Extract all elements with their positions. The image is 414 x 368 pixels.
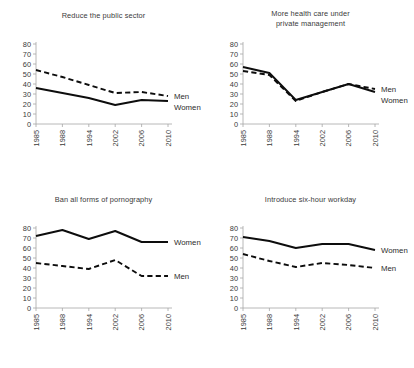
x-axis-tick-label: 2010 xyxy=(164,130,173,146)
y-axis-tick-label: 60 xyxy=(230,60,238,69)
y-axis-tick-label: 10 xyxy=(23,110,31,119)
x-axis-tick-label: 1988 xyxy=(265,130,274,146)
chart-panel-six-hour-workday: Introduce six-hour workday 0102030405060… xyxy=(207,184,414,368)
x-axis-tick-label: 2002 xyxy=(318,130,327,146)
series-line-women xyxy=(243,237,375,250)
x-axis-tick-label: 1985 xyxy=(32,314,41,330)
y-axis-tick-label: 70 xyxy=(23,234,31,243)
y-axis-tick-label: 50 xyxy=(23,70,31,79)
x-axis-tick-label: 2010 xyxy=(164,314,173,330)
series-label-men: Men xyxy=(381,85,396,94)
series-label-men: Men xyxy=(174,92,189,101)
x-axis-tick-label: 1985 xyxy=(239,130,248,146)
series-line-women xyxy=(36,88,168,105)
series-label-men: Men xyxy=(381,264,396,273)
y-axis-tick-label: 50 xyxy=(230,254,238,263)
chart-plot-area: 0102030405060708019851988199420022006201… xyxy=(0,184,207,368)
series-line-women xyxy=(243,67,375,100)
x-axis-tick-label: 1994 xyxy=(292,130,301,146)
x-axis-tick-label: 1985 xyxy=(239,314,248,330)
y-axis-tick-label: 40 xyxy=(230,264,238,273)
y-axis-tick-label: 70 xyxy=(23,50,31,59)
y-axis-tick-label: 30 xyxy=(230,274,238,283)
y-axis-tick-label: 80 xyxy=(230,40,238,49)
y-axis-tick-label: 10 xyxy=(23,294,31,303)
chart-plot-area: 0102030405060708019851988199420022006201… xyxy=(207,0,414,184)
series-label-women: Women xyxy=(381,246,408,255)
x-axis-tick-label: 1988 xyxy=(58,130,67,146)
y-axis-tick-label: 30 xyxy=(23,90,31,99)
y-axis-tick-label: 10 xyxy=(230,294,238,303)
y-axis-tick-label: 80 xyxy=(230,224,238,233)
y-axis-tick-label: 40 xyxy=(23,80,31,89)
y-axis-tick-label: 30 xyxy=(23,274,31,283)
x-axis-tick-label: 2010 xyxy=(371,130,380,146)
y-axis-tick-label: 50 xyxy=(23,254,31,263)
y-axis-tick-label: 0 xyxy=(27,120,31,129)
x-axis-tick-label: 1994 xyxy=(292,314,301,330)
x-axis-tick-label: 2006 xyxy=(137,130,146,146)
x-axis-tick-label: 2006 xyxy=(344,130,353,146)
series-label-women: Women xyxy=(174,238,201,247)
x-axis-tick-label: 1994 xyxy=(85,130,94,146)
series-line-men xyxy=(243,254,375,268)
y-axis-tick-label: 20 xyxy=(230,284,238,293)
y-axis-tick-label: 10 xyxy=(230,110,238,119)
series-line-men xyxy=(36,260,168,276)
x-axis-tick-label: 2002 xyxy=(318,314,327,330)
y-axis-tick-label: 0 xyxy=(234,120,238,129)
x-axis-tick-label: 2002 xyxy=(111,314,120,330)
x-axis-tick-label: 2006 xyxy=(344,314,353,330)
y-axis-tick-label: 20 xyxy=(23,284,31,293)
chart-plot-area: 0102030405060708019851988199420022006201… xyxy=(207,184,414,368)
chart-grid: Reduce the public sector 010203040506070… xyxy=(0,0,414,368)
x-axis-tick-label: 2010 xyxy=(371,314,380,330)
y-axis-tick-label: 20 xyxy=(23,100,31,109)
chart-panel-ban-pornography: Ban all forms of pornography 01020304050… xyxy=(0,184,207,368)
y-axis-tick-label: 50 xyxy=(230,70,238,79)
y-axis-tick-label: 0 xyxy=(27,304,31,313)
x-axis-tick-label: 2002 xyxy=(111,130,120,146)
x-axis-tick-label: 1985 xyxy=(32,130,41,146)
y-axis-tick-label: 0 xyxy=(234,304,238,313)
chart-plot-area: 0102030405060708019851988199420022006201… xyxy=(0,0,207,184)
x-axis-tick-label: 2006 xyxy=(137,314,146,330)
y-axis-tick-label: 40 xyxy=(230,80,238,89)
y-axis-tick-label: 80 xyxy=(23,224,31,233)
y-axis-tick-label: 20 xyxy=(230,100,238,109)
series-line-women xyxy=(36,230,168,242)
series-label-women: Women xyxy=(381,96,408,105)
x-axis-tick-label: 1988 xyxy=(58,314,67,330)
y-axis-tick-label: 60 xyxy=(23,60,31,69)
y-axis-tick-label: 70 xyxy=(230,50,238,59)
series-label-women: Women xyxy=(174,103,201,112)
y-axis-tick-label: 40 xyxy=(23,264,31,273)
y-axis-tick-label: 80 xyxy=(23,40,31,49)
x-axis-tick-label: 1994 xyxy=(85,314,94,330)
chart-panel-reduce-public-sector: Reduce the public sector 010203040506070… xyxy=(0,0,207,184)
x-axis-tick-label: 1988 xyxy=(265,314,274,330)
y-axis-tick-label: 70 xyxy=(230,234,238,243)
y-axis-tick-label: 30 xyxy=(230,90,238,99)
chart-panel-health-care-private-management: More health care under private managemen… xyxy=(207,0,414,184)
y-axis-tick-label: 60 xyxy=(23,244,31,253)
series-label-men: Men xyxy=(174,272,189,281)
y-axis-tick-label: 60 xyxy=(230,244,238,253)
